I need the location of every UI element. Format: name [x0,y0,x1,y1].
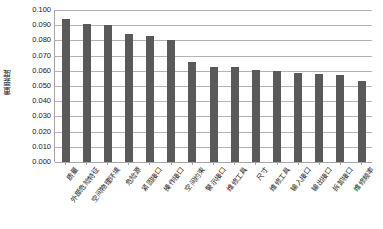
bar-slot [288,10,309,162]
plot-area [54,10,372,162]
tick-mark [319,162,320,165]
bar[interactable] [273,71,281,162]
category-label: 维修工具 [268,166,291,192]
tick-mark [171,162,172,165]
tick-mark [192,162,193,165]
bar[interactable] [252,70,260,162]
y-axis-tick-labels: 0.1000.0900.0800.0700.0600.0500.0400.030… [13,0,53,163]
bar[interactable] [125,34,133,162]
y-tick-label: 0.090 [32,21,51,29]
bar-slot [76,10,97,162]
tick-mark [213,162,214,165]
bar-slot [161,10,182,162]
tick-mark [340,162,341,165]
y-tick-label: 0.040 [32,97,51,105]
bar[interactable] [336,75,344,162]
y-tick-label: 0.000 [32,158,51,166]
category-label: 输入接口 [290,166,313,192]
bar-slot [118,10,139,162]
y-tick-label: 0.100 [32,6,51,14]
bar[interactable] [83,24,91,162]
category-label: 危险源 [124,166,142,187]
tick-mark [107,162,108,165]
category-label: 空间约束 [184,166,207,192]
category-label: 维修工具 [226,166,249,192]
category-label: 拆卸接口 [332,166,355,192]
bar-slot [182,10,203,162]
bar[interactable] [104,25,112,162]
tick-mark [255,162,256,165]
tick-mark [65,162,66,165]
bar-slot [266,10,287,162]
bar-slot [309,10,330,162]
bar-slot [97,10,118,162]
bar-slot [245,10,266,162]
y-tick-label: 0.060 [32,67,51,75]
y-tick-label: 0.050 [32,82,51,90]
bar[interactable] [167,40,175,162]
category-label: 警示接口 [205,166,228,192]
tick-mark [149,162,150,165]
bar[interactable] [358,81,366,162]
category-label: 质量 [65,166,79,181]
tick-mark [128,162,129,165]
category-label: 操作接口 [162,166,185,192]
y-axis-title: 重要度 [0,0,14,163]
tick-mark [361,162,362,165]
bar-slot [140,10,161,162]
bar-slot [203,10,224,162]
bar[interactable] [315,74,323,162]
tick-mark [277,162,278,165]
y-tick-label: 0.010 [32,143,51,151]
tick-mark [86,162,87,165]
bar[interactable] [62,19,70,162]
bar-chart: 重要度 0.1000.0900.0800.0700.0600.0500.0400… [0,0,383,229]
y-axis-title-text: 重要度 [2,69,13,95]
y-tick-label: 0.020 [32,128,51,136]
bars-layer [55,10,372,162]
bar[interactable] [294,73,302,162]
y-tick-label: 0.080 [32,37,51,45]
bar[interactable] [188,62,196,162]
bar[interactable] [210,67,218,162]
category-label: 紧固接口 [141,166,164,192]
bar[interactable] [231,67,239,162]
category-label: 尺寸 [256,166,270,181]
category-label: 维修频率 [353,166,376,192]
bar-slot [224,10,245,162]
bar[interactable] [146,36,154,162]
category-label: 输出接口 [311,166,334,192]
y-tick-label: 0.030 [32,113,51,121]
tick-mark [298,162,299,165]
bar-slot [330,10,351,162]
y-tick-label: 0.070 [32,52,51,60]
bar-slot [55,10,76,162]
x-axis-category-labels: 质量外部危险特征空间物理环境危险源紧固接口操作接口空间约束警示接口维修工具尺寸维… [54,166,372,229]
bar-slot [351,10,372,162]
tick-mark [234,162,235,165]
